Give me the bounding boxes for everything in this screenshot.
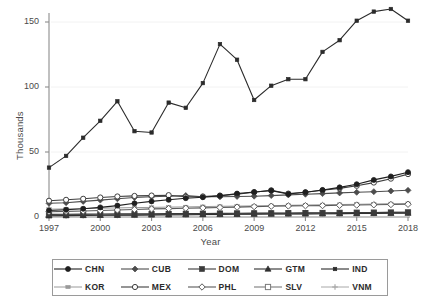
legend-marker-gtm-icon <box>253 262 283 276</box>
legend-item-cub[interactable]: CUB <box>120 260 187 278</box>
legend-item-kor[interactable]: KOR <box>53 278 120 296</box>
legend-label: PHL <box>217 282 237 292</box>
series-mex <box>46 172 410 204</box>
legend-item-phl[interactable]: PHL <box>187 278 254 296</box>
legend-item-gtm[interactable]: GTM <box>253 260 320 278</box>
legend-label: IND <box>350 264 368 274</box>
legend-item-chn[interactable]: CHN <box>53 260 120 278</box>
legend-item-ind[interactable]: IND <box>320 260 387 278</box>
legend-row-1: CHNCUBDOMGTMIND <box>53 260 387 278</box>
legend-row-2: KORMEXPHLSLVVNM <box>53 278 387 296</box>
chart-figure: Thousands Year 050100150 199720002003200… <box>0 0 421 305</box>
legend-label: CHN <box>83 264 104 274</box>
legend-marker-vnm-icon <box>320 280 350 294</box>
legend-label: VNM <box>350 282 372 292</box>
legend-label: KOR <box>83 282 105 292</box>
series-ind <box>47 7 409 169</box>
legend-marker-cub-icon <box>120 262 150 276</box>
legend-label: DOM <box>217 264 240 274</box>
legend-marker-mex-icon <box>120 280 150 294</box>
legend-marker-chn-icon <box>53 262 83 276</box>
legend-item-dom[interactable]: DOM <box>187 260 254 278</box>
plot-area <box>0 0 421 250</box>
legend-item-mex[interactable]: MEX <box>120 278 187 296</box>
legend-label: SLV <box>283 282 302 292</box>
legend-label: GTM <box>283 264 305 274</box>
chart-legend: CHNCUBDOMGTMIND KORMEXPHLSLVVNM <box>52 259 388 296</box>
legend-marker-phl-icon <box>187 280 217 294</box>
legend-item-vnm[interactable]: VNM <box>320 278 387 296</box>
legend-item-slv[interactable]: SLV <box>253 278 320 296</box>
legend-marker-kor-icon <box>53 280 83 294</box>
legend-label: MEX <box>150 282 171 292</box>
legend-label: CUB <box>150 264 171 274</box>
legend-marker-ind-icon <box>320 262 350 276</box>
legend-marker-dom-icon <box>187 262 217 276</box>
legend-marker-slv-icon <box>253 280 283 294</box>
